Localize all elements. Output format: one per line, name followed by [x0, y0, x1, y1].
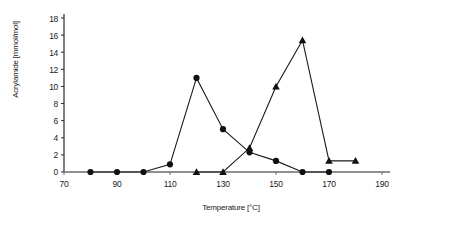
plot-area	[0, 0, 462, 230]
triangle-series-marker-140	[246, 144, 254, 151]
triangle-series-marker-150	[272, 83, 280, 90]
circle-series-marker-170	[326, 169, 332, 175]
circle-series-marker-150	[273, 158, 279, 164]
circle-series-line	[91, 78, 330, 172]
circle-series-marker-120	[193, 75, 199, 81]
circle-series-marker-130	[220, 126, 226, 132]
chart-container: Acrylamide [mmol/mol] Temperature [°C] 1…	[0, 0, 462, 230]
circle-series-marker-80	[87, 169, 93, 175]
triangle-series-marker-160	[299, 36, 307, 43]
circle-series-marker-160	[299, 169, 305, 175]
triangle-series-line	[197, 40, 356, 172]
circle-series-marker-110	[167, 161, 173, 167]
circle-series-marker-100	[140, 169, 146, 175]
circle-series-marker-90	[114, 169, 120, 175]
